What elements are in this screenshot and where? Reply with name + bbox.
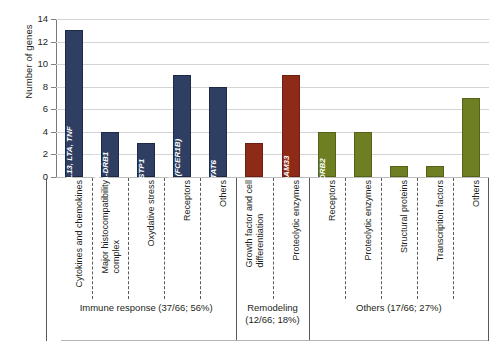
bar: STAT6 (209, 87, 227, 177)
y-tick-label: 12 (14, 37, 48, 47)
category-label-text: Transcription factors (435, 180, 446, 261)
category-label-text: Others (471, 180, 482, 207)
category-label-text: Proteolytic enzymes (363, 180, 374, 261)
category-label-text: Receptors (327, 180, 338, 221)
category-label-text: Cytokines and chemokines (74, 180, 85, 288)
category-label-text: Structural proteins (399, 180, 410, 253)
gridline (56, 64, 489, 65)
category-label-text: Oxydative stress (146, 180, 157, 247)
bar: IL4, IL10, IL13, LTA, TNF (65, 30, 83, 177)
category-label: Cytokines and chemokines (56, 178, 92, 299)
category-label: Structural proteins (381, 178, 417, 299)
category-label: Major histocompatibilitycomplex (92, 178, 128, 299)
category-label-band: Cytokines and chemokinesMajor histocompa… (56, 178, 489, 299)
category-label-text: Proteolytic enzymes (291, 180, 302, 261)
gridline (56, 109, 489, 110)
bar: ADAM33 (282, 75, 300, 177)
gridline (56, 87, 489, 88)
category-separator (92, 178, 93, 299)
group-label-band: Immune response (37/66; 56%)Remodeling(1… (56, 299, 489, 341)
category-label: Oxydative stress (128, 178, 164, 299)
y-tick-label: 10 (14, 59, 48, 69)
bar: HLA-DQB1HLA-DRB1 (101, 132, 119, 177)
category-label: Growth factor and celldifferentiation (236, 178, 272, 299)
group-divider (236, 299, 237, 341)
axis-right-border (488, 178, 489, 341)
bar: CD14, IL4R,MS4A2 (FCER1B) (173, 75, 191, 177)
gridline (56, 154, 489, 155)
category-separator (381, 178, 382, 299)
category-label-text: Major histocompatibilitycomplex (100, 180, 121, 274)
gene-category-bar-chart: Number of genes 02468101214 IL4, IL10, I… (0, 0, 501, 350)
group-summary-label: Remodeling(12/66; 18%) (236, 299, 308, 341)
y-tick-label: 8 (14, 82, 48, 92)
bar (245, 143, 263, 177)
bar: GSTP1 (137, 143, 155, 177)
gridline (56, 132, 489, 133)
category-label: Receptors (164, 178, 200, 299)
group-baseline (61, 340, 489, 341)
category-label: Receptors (309, 178, 345, 299)
category-separator (453, 178, 454, 299)
bar (354, 132, 372, 177)
category-separator (164, 178, 165, 299)
group-separator (309, 178, 310, 299)
bar (390, 166, 408, 177)
group-summary-label: Others (17/66; 27%) (309, 299, 489, 341)
axis-left-border (46, 178, 47, 341)
category-separator (128, 178, 129, 299)
y-tick-label: 4 (14, 127, 48, 137)
gridline (56, 19, 489, 20)
bar (462, 98, 480, 177)
category-separator (345, 178, 346, 299)
group-separator (236, 178, 237, 299)
y-tick-label: 0 (14, 172, 48, 182)
group-divider (309, 299, 310, 341)
category-label-text: Others (218, 180, 229, 207)
category-label: Proteolytic enzymes (345, 178, 381, 299)
category-label: Others (200, 178, 236, 299)
gridline (56, 42, 489, 43)
plot-area: IL4, IL10, IL13, LTA, TNFHLA-DQB1HLA-DRB… (56, 19, 489, 177)
bar (426, 166, 444, 177)
group-summary-label: Immune response (37/66; 56%) (56, 299, 236, 341)
y-tick-label: 2 (14, 149, 48, 159)
category-separator (200, 178, 201, 299)
y-tick-label: 14 (14, 14, 48, 24)
category-label: Others (453, 178, 489, 299)
category-label-text: Growth factor and celldifferentiation (244, 180, 265, 268)
category-label: Proteolytic enzymes (273, 178, 309, 299)
bar: ADRB2 (318, 132, 336, 177)
category-separator (417, 178, 418, 299)
category-label: Transcription factors (417, 178, 453, 299)
category-separator (273, 178, 274, 299)
category-label-text: Receptors (182, 180, 193, 221)
y-tick-label: 6 (14, 104, 48, 114)
